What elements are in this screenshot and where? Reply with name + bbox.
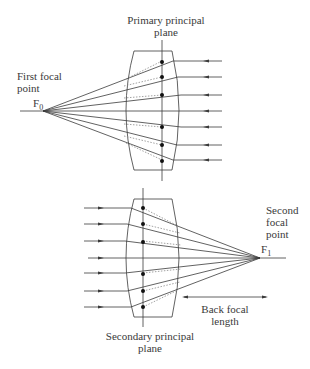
back-focal-length-label: Back focal length — [195, 303, 255, 327]
first-focal-point-label: First focal point — [17, 70, 62, 94]
primary-principal-plane-label: Primary principal plane — [116, 14, 216, 38]
secondary-plane-label-line2: plane — [98, 342, 202, 354]
first-focal-label-line2: point — [17, 82, 62, 94]
top-arrow-icons — [203, 60, 209, 162]
secondary-plane-label-line1: Secondary principal — [98, 330, 202, 342]
f1-subscript: 1 — [267, 249, 271, 258]
back-focal-length-arrow — [182, 296, 268, 299]
second-focal-label-line3: point — [266, 228, 298, 240]
second-focal-point-label: Second focal point — [266, 204, 298, 240]
top-incoming-rays — [173, 61, 222, 160]
focal-point-f1-label: F1 — [261, 243, 271, 260]
back-focal-label-line2: length — [195, 315, 255, 327]
bottom-dotted-extensions — [143, 208, 181, 307]
second-focal-label-line2: focal — [266, 216, 298, 228]
secondary-principal-plane-label: Secondary principal plane — [98, 330, 202, 354]
bottom-arrow-icons — [98, 207, 104, 309]
top-lens-diagram — [20, 40, 222, 181]
top-dotted-extensions — [124, 61, 162, 160]
bottom-lens-diagram — [84, 188, 286, 327]
focal-point-f0-label: F0 — [33, 97, 43, 114]
bottom-incoming-rays — [84, 208, 131, 307]
first-focal-label-line1: First focal — [17, 70, 62, 82]
bottom-refracted-rays — [125, 208, 260, 307]
lens-diagram — [0, 0, 310, 369]
back-focal-label-line1: Back focal — [195, 303, 255, 315]
second-focal-label-line1: Second — [266, 204, 298, 216]
primary-plane-label-line1: Primary principal — [116, 14, 216, 26]
primary-plane-label-line2: plane — [116, 26, 216, 38]
f0-subscript: 0 — [39, 103, 43, 112]
